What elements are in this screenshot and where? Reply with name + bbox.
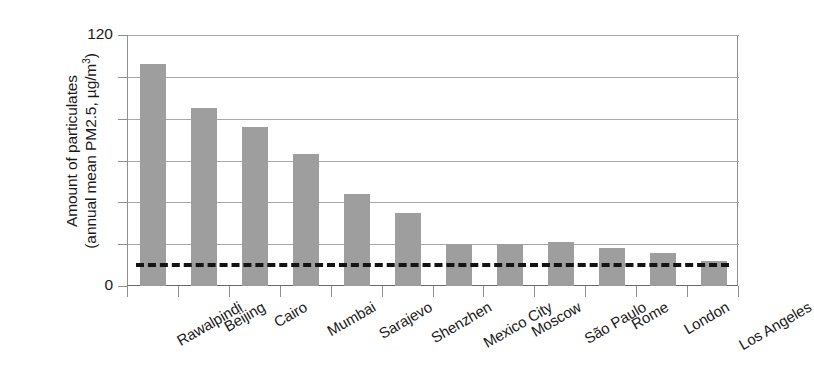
x-axis-category-label: Sarajevo — [376, 298, 435, 342]
x-axis-tick — [127, 286, 128, 297]
y-axis-title-line-2: (annual mean PM2.5, µg/m3) — [81, 6, 100, 296]
x-axis-tick — [738, 286, 739, 297]
y-axis-tick — [118, 286, 127, 287]
gridline — [128, 119, 739, 120]
bar — [191, 108, 217, 286]
x-axis-tick — [382, 286, 383, 297]
x-axis-tick — [585, 286, 586, 297]
y-axis-tick — [118, 202, 127, 203]
y-axis-title-wrapper: Amount of particulates (annual mean PM2.… — [0, 0, 70, 300]
y-axis-tick — [118, 35, 127, 36]
x-axis-tick — [636, 286, 637, 297]
gridline — [128, 77, 739, 78]
x-axis-tick — [178, 286, 179, 297]
bar — [344, 194, 370, 286]
y-axis-tick — [118, 77, 127, 78]
x-axis-tick — [331, 286, 332, 297]
bar — [650, 253, 676, 286]
bar — [599, 248, 625, 286]
y-axis-tick-label: 120 — [10, 25, 113, 43]
y-axis-tick-label: 0 — [10, 276, 113, 294]
y-axis-tick — [118, 244, 127, 245]
x-axis-tick — [280, 286, 281, 297]
x-axis-category-label: Los Angeles — [735, 298, 813, 353]
plot-area — [127, 35, 738, 286]
x-axis-tick — [534, 286, 535, 297]
x-axis-category-label: Cairo — [271, 298, 310, 330]
bar — [140, 64, 166, 286]
x-axis-tick — [687, 286, 688, 297]
y-axis-title: Amount of particulates (annual mean PM2.… — [62, 6, 100, 296]
gridline — [128, 35, 739, 36]
x-axis-category-label: London — [680, 298, 731, 337]
bar — [395, 213, 421, 286]
x-axis-category-label: Mumbai — [324, 298, 378, 339]
y-axis-title-exponent: 3 — [81, 58, 92, 63]
y-axis-tick — [118, 161, 127, 162]
x-axis-tick — [433, 286, 434, 297]
gridline — [128, 161, 739, 162]
gridline — [128, 202, 739, 203]
x-axis-tick — [483, 286, 484, 297]
y-axis-title-line-2-prefix: (annual mean PM2.5, µg/m — [82, 64, 99, 249]
gridline — [128, 244, 739, 245]
y-axis-title-line-2-suffix: ) — [82, 53, 99, 58]
y-axis-title-line-1: Amount of particulates — [62, 6, 81, 296]
who-guideline-dashed-line — [136, 263, 729, 267]
y-axis-tick — [118, 119, 127, 120]
x-axis-tick — [229, 286, 230, 297]
